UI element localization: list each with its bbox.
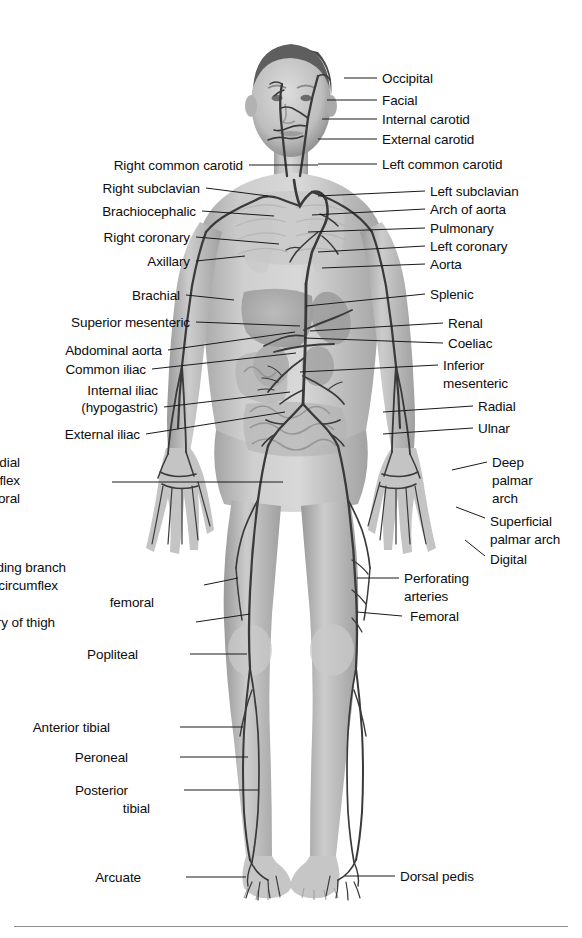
- artery-label-arteries: arteries: [404, 588, 448, 605]
- artery-label-circumflex: circumflex: [0, 472, 20, 489]
- artery-label-tibial: tibial: [123, 800, 150, 817]
- artery-label-arch-of-aorta: Arch of aorta: [430, 201, 506, 218]
- artery-label-arch: arch: [492, 490, 518, 507]
- artery-label-occipital: Occipital: [382, 70, 433, 87]
- artery-label-internal-carotid: Internal carotid: [382, 111, 470, 128]
- leader-line-arch-of-aorta: [312, 209, 425, 215]
- artery-label-inferior: Inferior: [443, 357, 484, 374]
- artery-label-pulmonary: Pulmonary: [430, 220, 494, 237]
- leader-line-digital: [465, 540, 485, 556]
- artery-label-superior-mesenteric: Superior mesenteric: [71, 314, 190, 331]
- artery-label-axillary: Axillary: [147, 253, 190, 270]
- artery-label-abdominal-aorta: Abdominal aorta: [65, 342, 162, 359]
- artery-label-mesenteric: mesenteric: [443, 375, 508, 392]
- artery-label-splenic: Splenic: [430, 286, 474, 303]
- leader-line-femoral: [357, 612, 402, 616]
- artery-label-palmar-arch: palmar arch: [490, 531, 560, 548]
- artery-label-hypogastric: (hypogastric): [81, 399, 158, 416]
- artery-label-digital: Digital: [490, 551, 527, 568]
- artery-label-right-coronary: Right coronary: [104, 229, 190, 246]
- leader-line-superficial: [456, 507, 485, 518]
- artery-label-facial: Facial: [382, 92, 417, 109]
- artery-label-radial: Radial: [478, 398, 516, 415]
- leader-line-aorta: [322, 264, 425, 268]
- leader-line-radial: [383, 406, 473, 412]
- anatomical-figure-canvas: Right common carotidRight subclavianBrac…: [0, 0, 582, 938]
- leader-line-abdominal-aorta: [168, 332, 295, 350]
- artery-label-arcuate: Arcuate: [95, 869, 141, 886]
- leader-line-inferior: [300, 365, 438, 372]
- leader-line-common-iliac: [152, 353, 296, 369]
- leader-line-renal: [310, 323, 443, 331]
- leader-line-coeliac: [304, 338, 443, 343]
- artery-label-femoral: femoral: [110, 594, 154, 611]
- artery-label-dorsal-pedis: Dorsal pedis: [400, 868, 474, 885]
- artery-label-posterior: Posterior: [75, 782, 128, 799]
- artery-label-of-lateral-circumflex: of lateral circumflex: [0, 577, 58, 594]
- artery-label-internal-iliac: Internal iliac: [87, 382, 158, 399]
- artery-label-brachial: Brachial: [132, 287, 180, 304]
- artery-label-external-iliac: External iliac: [65, 426, 140, 443]
- leader-line-ulnar: [383, 428, 473, 434]
- artery-label-palmar: palmar: [492, 472, 533, 489]
- leader-line-brachial: [186, 295, 234, 300]
- leader-line-right-subclavian: [206, 188, 268, 196]
- leader-line-of-lateral-circumflex: [204, 578, 238, 585]
- artery-label-left-common-carotid: Left common carotid: [382, 156, 502, 173]
- leader-line-hypogastric: [164, 392, 290, 407]
- artery-label-right-common-carotid: Right common carotid: [114, 157, 243, 174]
- artery-label-peroneal: Peroneal: [75, 749, 128, 766]
- leader-line-brachiocephalic: [202, 211, 274, 216]
- artery-label-superficial: Superficial: [490, 513, 552, 530]
- leader-line-superior-mesenteric: [196, 322, 300, 326]
- artery-label-coeliac: Coeliac: [448, 335, 492, 352]
- leader-line-left-subclavian: [318, 191, 425, 196]
- leader-line-axillary: [196, 256, 245, 261]
- artery-label-aorta: Aorta: [430, 256, 462, 273]
- artery-label-external-carotid: External carotid: [382, 131, 474, 148]
- leader-line-deep-artery-of-thigh: [196, 614, 250, 622]
- artery-label-left-coronary: Left coronary: [430, 238, 508, 255]
- leader-line-external-iliac: [146, 412, 285, 434]
- artery-label-right-subclavian: Right subclavian: [103, 180, 200, 197]
- artery-label-femoral: femoral: [0, 490, 20, 507]
- artery-label-brachiocephalic: Brachiocephalic: [102, 203, 196, 220]
- leader-line-right-coronary: [196, 237, 279, 244]
- artery-label-left-subclavian: Left subclavian: [430, 183, 519, 200]
- artery-label-femoral: Femoral: [410, 608, 459, 625]
- footer-divider: [14, 926, 568, 927]
- artery-label-ulnar: Ulnar: [478, 420, 510, 437]
- leader-line-left-coronary: [318, 246, 425, 252]
- artery-label-common-iliac: Common iliac: [65, 361, 146, 378]
- artery-label-deep: Deep: [492, 454, 524, 471]
- artery-label-deep-artery-of-thigh: Deep artery of thigh: [0, 614, 55, 631]
- leader-line-palmar: [452, 462, 487, 470]
- leader-line-pulmonary: [308, 228, 425, 232]
- artery-label-deep-medial: Deep medial: [0, 454, 20, 471]
- leader-line-splenic: [306, 294, 425, 306]
- artery-label-anterior-tibial: Anterior tibial: [33, 719, 110, 736]
- artery-label-perforating: Perforating: [404, 570, 469, 587]
- artery-label-descending-branch: Descending branch: [0, 559, 66, 576]
- artery-label-popliteal: Popliteal: [87, 646, 138, 663]
- artery-label-renal: Renal: [448, 315, 483, 332]
